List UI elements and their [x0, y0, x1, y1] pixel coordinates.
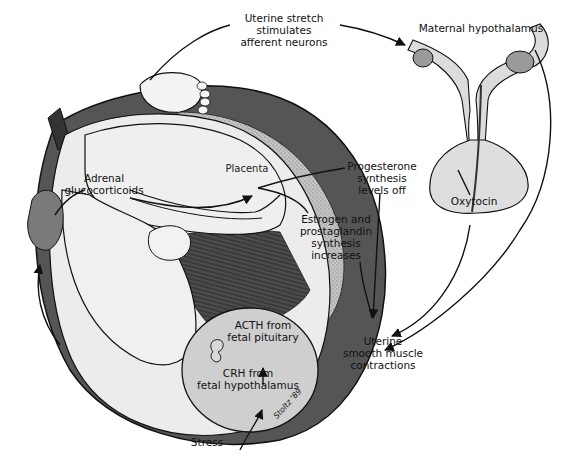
mammillary-body-right [506, 51, 534, 73]
label-line: glucocorticoids [64, 184, 143, 196]
label-line: levels off [347, 184, 416, 196]
label-oxytocin: Oxytocin [451, 195, 498, 207]
label-line: Estrogen and [300, 213, 372, 225]
label-line: CRH from [197, 367, 299, 379]
label-estrogen-prostaglandin: Estrogen and prostaglandin synthesis inc… [300, 213, 372, 261]
label-line: smooth muscle [343, 347, 423, 359]
label-line: synthesis [347, 172, 416, 184]
label-acth: ACTH from fetal pituitary [227, 319, 298, 343]
label-stress: Stress [191, 436, 223, 448]
label-maternal-hypothalamus: Maternal hypothalamus [419, 22, 543, 34]
label-uterine-stretch: Uterine stretch stimulates afferent neur… [240, 12, 327, 48]
label-uterine-contractions: Uterine smooth muscle contractions [343, 335, 423, 371]
fetal-hand [148, 226, 190, 261]
label-line: fetal pituitary [227, 331, 298, 343]
label-line: Adrenal [64, 172, 143, 184]
label-line: ACTH from [227, 319, 298, 331]
diagram-canvas [0, 0, 565, 460]
arrow-uterus-to-afferent [150, 25, 230, 80]
mammillary-body-left [413, 49, 433, 67]
label-crh: CRH from fetal hypothalamus [197, 367, 299, 391]
label-line: increases [300, 249, 372, 261]
maternal-hypothalamus-pituitary [408, 24, 548, 213]
arrow-oxytocin-to-contraction [392, 225, 470, 336]
label-line: prostaglandin [300, 225, 372, 237]
label-line: Uterine [343, 335, 423, 347]
label-line: afferent neurons [240, 36, 327, 48]
label-line: Progesterone [347, 160, 416, 172]
hypothalamus-stalk [408, 24, 548, 145]
label-placenta: Placenta [226, 163, 269, 175]
label-line: Uterine stretch [240, 12, 327, 24]
labor-hormone-diagram: Uterine stretch stimulates afferent neur… [0, 0, 565, 460]
label-progesterone: Progesterone synthesis levels off [347, 160, 416, 196]
label-adrenal-glucocorticoids: Adrenal glucocorticoids [64, 172, 143, 196]
label-line: contractions [343, 359, 423, 371]
label-line: synthesis [300, 237, 372, 249]
label-line: stimulates [240, 24, 327, 36]
adrenal-gland [28, 190, 64, 250]
arrow-afferent-to-hypothalamus [340, 25, 405, 45]
label-line: fetal hypothalamus [197, 379, 299, 391]
